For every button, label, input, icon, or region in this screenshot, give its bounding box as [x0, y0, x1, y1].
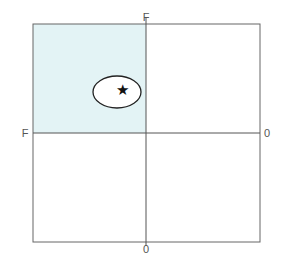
quadrant-diagram: ★ F F 0 0 [0, 0, 282, 257]
label-top: F [143, 11, 150, 23]
label-right: 0 [264, 127, 270, 139]
star-icon: ★ [116, 81, 129, 98]
label-bottom: 0 [143, 243, 149, 255]
label-left: F [22, 127, 29, 139]
